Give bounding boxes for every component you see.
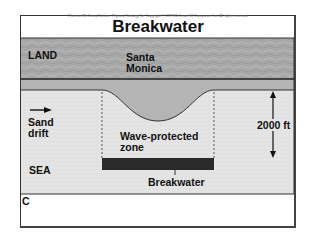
land-label: LAND [28, 50, 57, 61]
sand-drift-label-line2: drift [28, 128, 48, 139]
distance-label: 2000 ft [256, 120, 291, 131]
breakwater-label: Breakwater [148, 177, 205, 188]
sea-label: SEA [29, 165, 51, 176]
zone-label-line2: zone [120, 142, 144, 153]
city-label-line2: Monica [126, 63, 162, 74]
panel-label: C [22, 196, 30, 207]
breakwater-structure [102, 158, 214, 170]
